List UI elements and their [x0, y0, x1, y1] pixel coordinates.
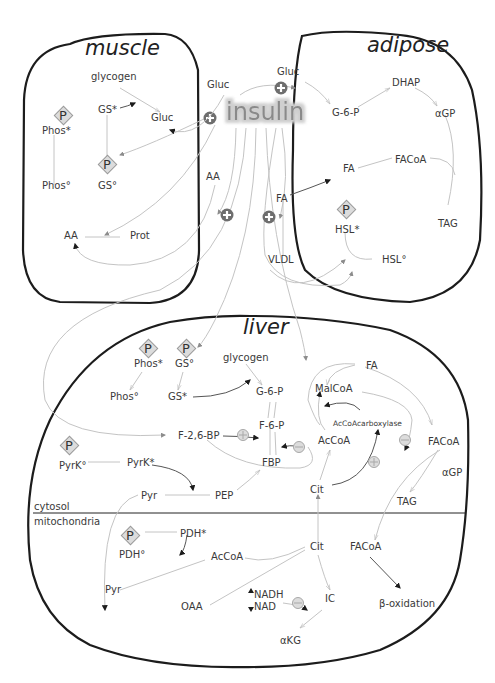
svg-text:P: P	[144, 341, 152, 356]
liver-facoa-cytosol: FACoA	[428, 436, 460, 447]
adipose-hsl-active: HSL*	[335, 224, 359, 235]
phosphate-icon-liver-pyrk: P	[60, 436, 78, 454]
liver-akg: αKG	[280, 635, 301, 646]
liver-fa: FA	[366, 360, 378, 371]
phosphate-icon-liver-gs: P	[177, 339, 195, 357]
adipose-hsl-inactive: HSL°	[382, 254, 406, 265]
phosphate-icon-liver-phos: P	[139, 339, 157, 357]
vldl-label: VLDL	[268, 254, 294, 265]
liver-pyr-cytosol: Pyr	[141, 490, 158, 501]
liver-glycogen: glycogen	[223, 352, 269, 363]
liver-pyr-mito: Pyr	[105, 584, 122, 595]
adipose-fa: FA	[343, 163, 355, 174]
plus-icon-liver-f26bp	[238, 430, 249, 441]
adipose-facoa: FACoA	[395, 154, 427, 165]
liver-cit-cytosol: Cit	[310, 484, 324, 495]
liver-agp: αGP	[442, 467, 462, 478]
liver-f6p: F-6-P	[259, 420, 284, 431]
liver-oaa: OAA	[181, 601, 203, 612]
liver-ic: IC	[325, 593, 335, 604]
muscle-phos-active: Phos*	[42, 125, 71, 136]
liver-phos-active: Phos*	[134, 358, 163, 369]
muscle-gs-active: GS*	[98, 104, 117, 115]
liver-beta-oxidation: β-oxidation	[379, 598, 435, 609]
liver-accoa-cytosol: AcCoA	[318, 435, 350, 446]
svg-text:P: P	[342, 202, 350, 217]
liver-nadh: NADH	[254, 589, 284, 600]
svg-text:P: P	[59, 108, 67, 123]
insulin-label: insulin	[226, 98, 304, 126]
svg-text:P: P	[103, 157, 111, 172]
plus-icon-adipose-fa	[263, 211, 276, 224]
plus-icon-adipose-gluc	[275, 82, 288, 95]
adipose-agp: αGP	[435, 108, 455, 119]
minus-icon-liver-nadh	[293, 598, 304, 609]
liver-gs-active: GS*	[168, 391, 187, 402]
plus-icon-muscle-gluc	[204, 112, 217, 125]
minus-icon-liver-malcoa	[400, 435, 411, 446]
liver-pep: PEP	[215, 490, 233, 501]
liver-nad: NAD	[254, 601, 276, 612]
liver-g6p: G-6-P	[256, 386, 283, 397]
muscle-prot: Prot	[130, 230, 150, 241]
adipose-g6p: G-6-P	[332, 107, 359, 118]
liver-accoa-carboxylase: AcCoAcarboxylase	[333, 419, 402, 428]
minus-icon-liver-fbp	[294, 442, 305, 453]
liver-malcoa: MalCoA	[315, 383, 353, 394]
adipose-title: adipose	[367, 33, 449, 57]
muscle-gs-inactive: GS°	[98, 180, 117, 191]
liver-pyrk-active: PyrK*	[127, 457, 155, 468]
svg-text:P: P	[126, 528, 134, 543]
plus-icon-muscle-aa	[221, 209, 234, 222]
muscle-gluc: Gluc	[151, 112, 173, 123]
svg-text:P: P	[182, 341, 190, 356]
liver-pdh-active: PDH*	[180, 528, 206, 539]
liver-phos-inactive: Phos°	[110, 391, 139, 402]
plus-icon-liver-cit	[369, 457, 380, 468]
liver-pdh-inactive: PDH°	[119, 549, 145, 560]
adipose-dhap: DHAP	[392, 77, 420, 88]
gluc-external-adipose: Gluc	[277, 66, 299, 77]
muscle-glycogen: glycogen	[91, 71, 137, 82]
muscle-aa: AA	[64, 230, 78, 241]
phosphate-icon-muscle-gs: P	[98, 155, 116, 173]
liver-pyrk-inactive: PyrK°	[59, 460, 87, 471]
liver-gs-inactive: GS°	[175, 358, 194, 369]
mitochondria-label: mitochondria	[34, 516, 100, 527]
liver-outline	[28, 316, 468, 667]
fa-external: FA	[276, 193, 288, 204]
liver-tag: TAG	[396, 496, 417, 507]
phosphate-icon-adipose-hsl: P	[337, 200, 355, 218]
liver-facoa-mito: FACoA	[350, 541, 382, 552]
liver-accoa-mito: AcCoA	[211, 551, 243, 562]
phosphate-icon-liver-pdh: P	[121, 526, 139, 544]
liver-cit-mito: Cit	[310, 541, 324, 552]
svg-text:P: P	[65, 438, 73, 453]
gluc-external-muscle: Gluc	[207, 79, 229, 90]
aa-external: AA	[206, 171, 220, 182]
cytosol-label: cytosol	[34, 501, 70, 512]
insulin-metabolism-diagram: muscle adipose liver cytosol mitochondri…	[0, 0, 495, 683]
muscle-title: muscle	[85, 36, 160, 60]
liver-fbp: FBP	[262, 457, 281, 468]
liver-title: liver	[243, 315, 290, 339]
adipose-tag: TAG	[437, 218, 458, 229]
liver-f26bp: F-2,6-BP	[178, 430, 219, 441]
phosphate-icon-muscle-phos: P	[54, 106, 72, 124]
muscle-phos-inactive: Phos°	[42, 180, 71, 191]
